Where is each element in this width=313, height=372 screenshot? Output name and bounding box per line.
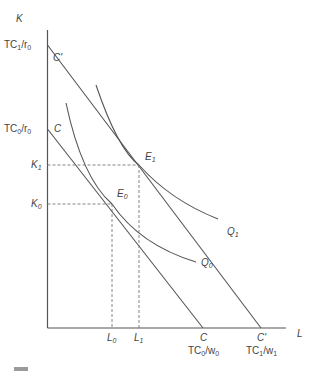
- isocost-line-c-prime: [48, 45, 262, 328]
- isocost-isoquant-diagram: K L TC1/r0 TC0/r0 K1 K0 C' C E1 E0 Q1 Q0…: [0, 0, 313, 372]
- figure-marker-bar: [14, 367, 28, 371]
- tc1-r0-label: TC1/r0: [4, 39, 31, 51]
- q1-label: Q1: [227, 226, 239, 238]
- c-bottom-label: C: [200, 332, 208, 343]
- l1-label: L1: [134, 332, 144, 344]
- tc0-r0-label: TC0/r0: [4, 123, 31, 135]
- y-axis-label: K: [16, 13, 24, 24]
- e1-label: E1: [145, 151, 156, 163]
- tc1-w1-label: TC1/w1: [246, 345, 277, 357]
- isoquant-q1: [96, 85, 218, 219]
- c-top-label: C: [54, 123, 62, 134]
- c-prime-bottom-label: C': [257, 332, 267, 343]
- isoquant-q0: [66, 103, 196, 262]
- e0-label: E0: [117, 188, 128, 200]
- c-prime-top-label: C': [53, 52, 63, 63]
- k0-label: K0: [31, 198, 42, 210]
- l0-label: L0: [107, 332, 117, 344]
- k1-label: K1: [31, 159, 42, 171]
- isocost-line-c: [48, 129, 204, 328]
- q0-label: Q0: [201, 257, 213, 269]
- tc0-w0-label: TC0/w0: [188, 345, 219, 357]
- x-axis-label: L: [297, 328, 303, 339]
